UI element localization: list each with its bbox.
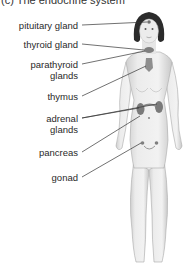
left-leg [130,160,149,262]
thyroid-leader [82,44,144,50]
label-thymus: thymus [47,91,78,102]
label-thyroid-gland: thyroid gland [24,39,78,50]
label-adrenal-line1: adrenal [46,113,78,124]
right-leg [149,160,168,262]
thyroid-gland [144,47,154,53]
label-gonad: gonad [52,172,78,183]
pituitary-gland [147,20,151,24]
adrenal-leader-2 [82,108,139,118]
label-parathyroid-line2: glands [50,70,78,81]
label-adrenal-line2: glands [50,124,78,135]
ovary-left [141,141,145,145]
adrenal-gland-right [155,101,163,113]
ovary-right [155,141,159,145]
label-parathyroid-line1: parathyroid [30,59,78,70]
label-pituitary-gland: pituitary gland [19,20,78,31]
adrenal-gland-left [137,103,145,115]
label-pancreas: pancreas [39,147,78,158]
